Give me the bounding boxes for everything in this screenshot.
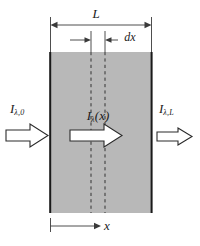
position-dimension-x	[51, 218, 102, 232]
incident-intensity-label: Iλ,0	[10, 102, 24, 115]
position-label: x	[104, 219, 110, 232]
slab-right-wall	[151, 52, 153, 213]
length-label: L	[92, 7, 99, 20]
transmitted-beam-arrow	[157, 128, 192, 145]
differential-thickness-dx	[70, 37, 118, 43]
local-intensity-argument: (x)	[95, 108, 109, 123]
slab-left-wall	[49, 52, 51, 213]
diagram-canvas	[0, 0, 200, 246]
incident-beam-arrow	[6, 124, 48, 147]
thickness-label: dx	[124, 31, 135, 43]
local-intensity-subscript: λ	[91, 115, 95, 124]
incident-intensity-subscript: λ,0	[14, 108, 24, 117]
local-intensity-label: Iλ(x)	[87, 109, 109, 122]
length-dimension-L	[51, 22, 152, 28]
exit-intensity-label: Iλ,L	[159, 102, 174, 115]
exit-intensity-subscript: λ,L	[163, 108, 174, 117]
radiative-transfer-diagram: L dx Iλ,0 Iλ(x) Iλ,L x	[0, 0, 200, 246]
